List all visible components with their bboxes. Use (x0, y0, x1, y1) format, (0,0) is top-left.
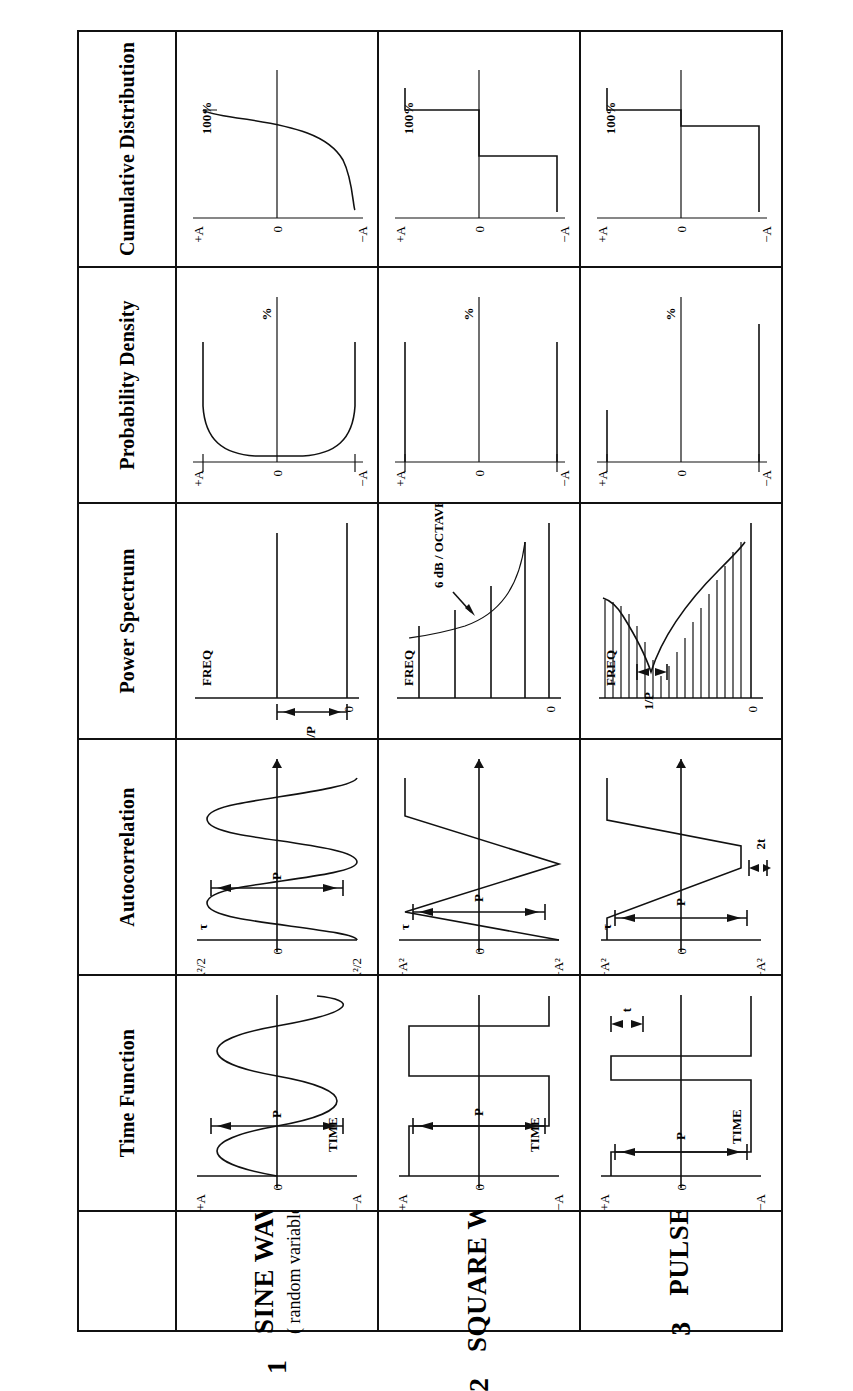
svg-text:P: P (471, 893, 486, 901)
plot-sine-autocorrelation: +A²/2 0 −A²/2 P τ (177, 740, 377, 974)
column-header-label: Autocorrelation (115, 740, 138, 974)
svg-text:0: 0 (472, 948, 487, 955)
svg-text:100%: 100% (401, 101, 416, 134)
svg-text:t: t (619, 1007, 634, 1012)
table-row: 1 SINE WAVE ( random variable = Θ) +A 0 … (176, 31, 378, 1331)
column-header-probability-density: Probability Density (78, 267, 176, 503)
svg-text:%: % (663, 307, 678, 320)
cell-pulse-power-spectrum: 0 FREQ (580, 503, 782, 739)
row-number: 1 (261, 1360, 293, 1374)
plot-pulse-autocorrelation: +A² 0 −A² P τ (581, 740, 781, 974)
svg-text:0: 0 (472, 226, 487, 233)
svg-text:τ: τ (397, 924, 412, 930)
plot-pulse-power-spectrum: 0 FREQ (581, 504, 781, 738)
plot-sine-time-function: +A 0 −A TIME P (177, 976, 377, 1210)
svg-text:1/P: 1/P (641, 691, 656, 709)
svg-text:0: 0 (674, 948, 689, 955)
svg-text:0: 0 (472, 1184, 487, 1191)
svg-text:+A: +A (595, 225, 610, 242)
cell-square-autocorrelation: +A² 0 −A² P τ (378, 739, 580, 975)
column-header-autocorrelation: Autocorrelation (78, 739, 176, 975)
svg-text:P: P (673, 897, 688, 905)
svg-text:−A: −A (759, 469, 774, 486)
svg-text:+A²: +A² (597, 957, 612, 973)
svg-text:−A: −A (551, 1193, 566, 1210)
plot-sine-cumulative-distribution: +A 0 −A 100% (177, 32, 377, 266)
plot-sine-probability-density: +A 0 −A % (177, 268, 377, 502)
plot-pulse-cumulative-distribution: +A 0 −A 100% (581, 32, 781, 266)
svg-text:0: 0 (674, 470, 689, 477)
svg-text:0: 0 (270, 226, 285, 233)
column-header-label: Power Spectrum (115, 504, 138, 738)
svg-text:0: 0 (543, 706, 558, 713)
plot-square-time-function: +A 0 −A TIME P (379, 976, 579, 1210)
svg-text:P: P (269, 871, 284, 879)
svg-text:−A²: −A² (551, 957, 566, 973)
svg-text:TIME: TIME (325, 1117, 340, 1152)
signal-characteristics-table: Time Function Autocorrelation Power Spec… (77, 30, 783, 1332)
cell-sine-power-spectrum: 0 FREQ 1/P (176, 503, 378, 739)
svg-text:+A: +A (395, 1193, 410, 1210)
table-row: 2 SQUARE WAVE +A 0 −A (378, 31, 580, 1331)
svg-text:−A: −A (557, 225, 572, 242)
cell-sine-autocorrelation: +A²/2 0 −A²/2 P τ (176, 739, 378, 975)
cell-square-time-function: +A 0 −A TIME P (378, 975, 580, 1211)
svg-text:−A²: −A² (753, 957, 768, 973)
plot-sine-power-spectrum: 0 FREQ 1/P (177, 504, 377, 738)
svg-text:P: P (471, 1107, 486, 1115)
cell-sine-probability-density: +A 0 −A % (176, 267, 378, 503)
corner-cell (78, 1211, 176, 1331)
svg-text:P: P (269, 1109, 284, 1117)
svg-text:−A: −A (753, 1193, 768, 1210)
plot-pulse-probability-density: +A 0 −A % (581, 268, 781, 502)
row-label-pulse: 3 PULSE (580, 1211, 782, 1331)
svg-text:τ: τ (599, 924, 614, 930)
column-header-label: Cumulative Distribution (115, 32, 138, 266)
svg-text:−A: −A (557, 469, 572, 486)
row-number: 2 (463, 1377, 495, 1391)
svg-text:+A: +A (191, 225, 206, 242)
cell-sine-cumulative-distribution: +A 0 −A 100% (176, 31, 378, 267)
svg-text:−A: −A (355, 225, 370, 242)
cell-pulse-autocorrelation: +A² 0 −A² P τ (580, 739, 782, 975)
svg-text:0: 0 (745, 706, 760, 713)
plot-square-autocorrelation: +A² 0 −A² P τ (379, 740, 579, 974)
svg-text:P: P (673, 1131, 688, 1139)
svg-text:100%: 100% (199, 101, 214, 134)
plot-square-probability-density: +A 0 −A % (379, 268, 579, 502)
svg-text:%: % (461, 307, 476, 320)
svg-text:0: 0 (472, 470, 487, 477)
rotated-table-wrapper: Time Function Autocorrelation Power Spec… (77, 42, 777, 1332)
cell-sine-time-function: +A 0 −A TIME P (176, 975, 378, 1211)
svg-text:2t: 2t (753, 837, 768, 849)
column-header-label: Probability Density (115, 268, 138, 502)
svg-text:−A: −A (349, 1193, 364, 1210)
svg-text:0: 0 (341, 706, 356, 713)
cell-pulse-probability-density: +A 0 −A % (580, 267, 782, 503)
svg-text:+A²/2: +A²/2 (193, 958, 208, 974)
svg-text:FREQ: FREQ (199, 649, 214, 685)
svg-text:0: 0 (674, 226, 689, 233)
svg-text:−A: −A (355, 469, 370, 486)
column-header-time-function: Time Function (78, 975, 176, 1211)
svg-text:0: 0 (270, 470, 285, 477)
row-label-sine-wave: 1 SINE WAVE ( random variable = Θ) (176, 1211, 378, 1331)
svg-text:100%: 100% (603, 101, 618, 134)
svg-text:0: 0 (270, 1184, 285, 1191)
column-header-label: Time Function (115, 976, 138, 1210)
svg-text:%: % (259, 307, 274, 320)
table-header-row: Time Function Autocorrelation Power Spec… (78, 31, 176, 1331)
plot-pulse-time-function: +A 0 −A TIME P (581, 976, 781, 1210)
column-header-power-spectrum: Power Spectrum (78, 503, 176, 739)
svg-text:+A²: +A² (395, 957, 410, 973)
svg-text:TIME: TIME (527, 1117, 542, 1152)
plot-square-cumulative-distribution: +A 0 −A 100% (379, 32, 579, 266)
svg-text:TIME: TIME (729, 1109, 744, 1144)
svg-text:0: 0 (270, 948, 285, 955)
plot-square-power-spectrum: 0 FREQ 6 dB / OCTAVE (379, 504, 579, 738)
svg-text:+A: +A (193, 1193, 208, 1210)
cell-square-power-spectrum: 0 FREQ 6 dB / OCTAVE (378, 503, 580, 739)
svg-text:+A: +A (597, 1193, 612, 1210)
svg-text:FREQ: FREQ (401, 649, 416, 685)
